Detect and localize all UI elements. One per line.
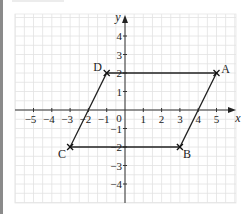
y-tick-label: −4 (110, 178, 122, 190)
y-tick-label: −2 (110, 141, 122, 153)
y-tick-label: 2 (117, 67, 123, 79)
vertex-label-c: C (58, 147, 66, 161)
y-tick-label: 4 (117, 30, 123, 42)
x-tick-label: 2 (159, 113, 165, 125)
vertex-label-a: A (221, 62, 230, 76)
x-tick-label: 1 (141, 113, 147, 125)
x-tick-label: −4 (43, 113, 55, 125)
coordinate-diagram: −5−4−3−2−1123454321−1−2−3−40xyABCD (0, 0, 246, 214)
y-tick-label: 3 (117, 49, 123, 61)
x-tick-label: 4 (195, 113, 201, 125)
y-tick-label: −3 (110, 160, 122, 172)
vertex-label-b: B (183, 147, 191, 161)
labels: −5−4−3−2−1123454321−1−2−3−40xyABCD (25, 10, 242, 190)
x-tick-label: −3 (61, 113, 73, 125)
origin-label: 0 (116, 112, 122, 124)
x-tick-label: 5 (214, 113, 220, 125)
x-tick-label: −5 (25, 113, 37, 125)
y-axis-label: y (114, 10, 121, 24)
x-tick-label: −1 (98, 113, 110, 125)
x-tick-label: −2 (80, 113, 92, 125)
x-tick-label: 3 (177, 113, 183, 125)
vertex-label-d: D (93, 60, 102, 74)
y-tick-label: 1 (117, 86, 123, 98)
y-tick-label: −1 (110, 123, 122, 135)
x-axis-label: x (234, 111, 241, 125)
